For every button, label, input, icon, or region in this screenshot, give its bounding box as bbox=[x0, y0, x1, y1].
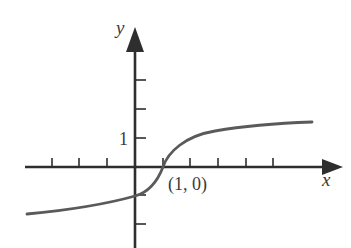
y-tick-label-1: 1 bbox=[119, 129, 128, 149]
y-ticks bbox=[135, 80, 146, 224]
y-axis-label: y bbox=[114, 17, 125, 38]
x-axis-label: x bbox=[321, 169, 331, 190]
point-label: (1, 0) bbox=[168, 174, 207, 195]
chart-canvas: y x 1 (1, 0) bbox=[0, 0, 351, 248]
y-axis-arrow-icon bbox=[126, 27, 144, 52]
